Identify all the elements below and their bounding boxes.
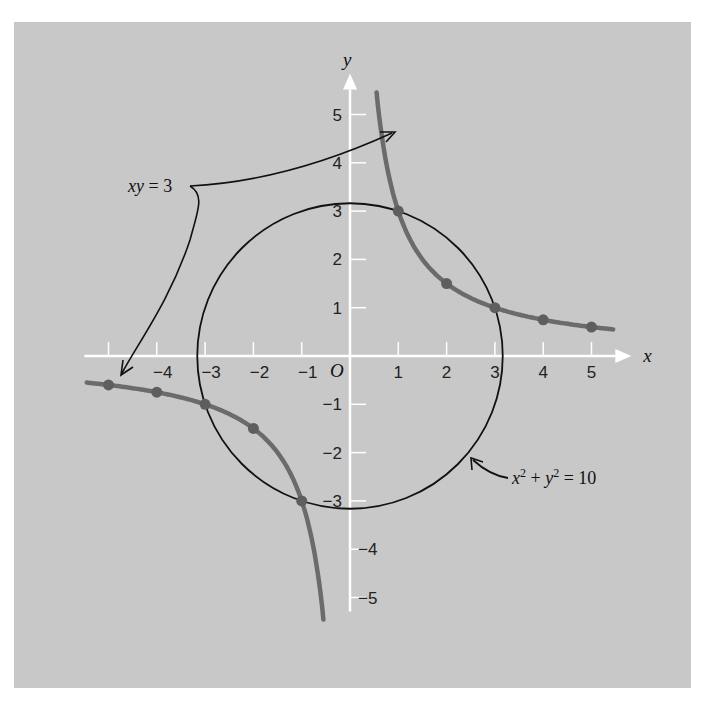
- hyperbola-branch-negative: [87, 383, 324, 620]
- data-point: [151, 387, 162, 398]
- axes: [84, 74, 631, 612]
- x-axis-label: x: [642, 345, 652, 366]
- annotation-circle-plus: +: [526, 468, 545, 488]
- data-point: [248, 423, 259, 434]
- annotation-hyperbola-label: xy = 3: [127, 176, 172, 196]
- x-axis-arrowhead: [615, 349, 631, 363]
- annotation-circle: x2 + y2 = 10: [471, 458, 596, 488]
- y-axis-label: y: [341, 49, 352, 70]
- x-tick-label: 3: [490, 363, 499, 382]
- y-axis-arrowhead: [343, 74, 357, 90]
- annotation-circle-leader: [473, 460, 508, 478]
- annotation-hyperbola-leader-lower: [122, 186, 199, 373]
- origin-label: O: [330, 360, 344, 381]
- data-point: [441, 278, 452, 289]
- x-tick-label: 1: [394, 363, 403, 382]
- y-tick-label: 2: [333, 250, 342, 269]
- x-tick-label: −3: [201, 363, 220, 382]
- annotation-circle-x: x: [511, 468, 520, 488]
- x-tick-label: 5: [587, 363, 596, 382]
- annotation-circle-label: x2 + y2 = 10: [511, 466, 596, 488]
- annotation-hyperbola-var: xy: [127, 176, 144, 196]
- annotation-circle-y: y: [543, 468, 553, 488]
- data-point: [200, 399, 211, 410]
- x-tick-label: −2: [250, 363, 269, 382]
- annotation-hyperbola: xy = 3: [121, 132, 395, 375]
- y-tick-label: −1: [323, 395, 342, 414]
- chart-svg: x y O −4−3−2−112345 54321−1−2−3−4−5 xy =…: [0, 0, 701, 704]
- annotation-hyperbola-rest: = 3: [144, 176, 172, 196]
- data-point: [103, 379, 114, 390]
- data-point: [489, 302, 500, 313]
- annotation-hyperbola-leader-upper: [190, 133, 392, 186]
- y-tick-label: 5: [333, 106, 342, 125]
- x-tick-label: −4: [153, 363, 172, 382]
- data-point: [538, 314, 549, 325]
- x-tick-label: 2: [442, 363, 451, 382]
- data-point: [586, 322, 597, 333]
- y-tick-label: 1: [333, 299, 342, 318]
- x-tick-label: −1: [298, 363, 317, 382]
- annotation-circle-rest: = 10: [559, 468, 596, 488]
- y-tick-label: −5: [358, 589, 377, 608]
- data-point: [296, 495, 307, 506]
- x-tick-label: 4: [538, 363, 547, 382]
- data-point: [393, 206, 404, 217]
- hyperbola-branch-positive: [377, 93, 614, 330]
- y-tick-label: −4: [358, 540, 377, 559]
- x-tick-labels: −4−3−2−112345: [153, 363, 596, 382]
- y-tick-label: −2: [323, 444, 342, 463]
